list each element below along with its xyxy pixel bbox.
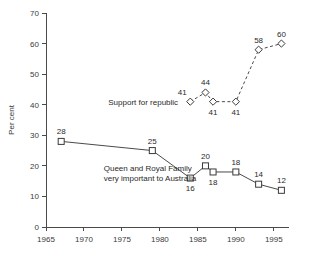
data-point-marker <box>256 181 262 187</box>
x-tick-label: 1980 <box>151 235 169 244</box>
data-point-marker <box>149 148 155 154</box>
data-point-marker <box>278 187 284 193</box>
x-tick-label: 1975 <box>113 235 131 244</box>
data-point-label: 16 <box>186 184 195 193</box>
data-point-label: 41 <box>209 108 218 117</box>
y-tick-label: 10 <box>30 192 39 201</box>
data-point-label: 44 <box>201 78 210 87</box>
data-point-label: 20 <box>201 152 210 161</box>
chart-plot-area: 010203040506070 196519701975198019851990… <box>0 0 309 264</box>
republic-annotation: Support for republic <box>108 98 178 107</box>
y-tick-label: 30 <box>30 131 39 140</box>
data-point-label: 41 <box>178 88 187 97</box>
y-tick-group: 010203040506070 <box>30 9 46 232</box>
axis-lines <box>46 13 289 227</box>
x-tick-label: 1995 <box>265 235 283 244</box>
y-tick-label: 50 <box>30 70 39 79</box>
axes-group <box>46 13 289 227</box>
x-tick-label: 1970 <box>75 235 93 244</box>
y-tick-label: 40 <box>30 101 39 110</box>
y-tick-label: 0 <box>35 223 40 232</box>
chart-container: 010203040506070 196519701975198019851990… <box>0 0 309 264</box>
data-point-marker <box>58 138 64 144</box>
x-tick-label: 1965 <box>37 235 55 244</box>
data-point-label: 14 <box>254 170 263 179</box>
monarchy-annotation: Queen and Royal Family <box>104 164 192 173</box>
data-point-marker <box>187 98 194 105</box>
y-tick-label: 20 <box>30 162 39 171</box>
data-point-label: 60 <box>277 30 286 39</box>
data-point-label: 12 <box>277 176 286 185</box>
data-point-marker <box>255 46 262 53</box>
data-point-marker <box>202 163 208 169</box>
data-point-label: 18 <box>231 158 240 167</box>
y-tick-label: 70 <box>30 9 39 18</box>
data-point-label: 25 <box>148 137 157 146</box>
x-tick-label: 1990 <box>227 235 245 244</box>
data-point-label: 58 <box>254 36 263 45</box>
monarchy-annotation: very important to Australia <box>104 174 197 183</box>
data-point-marker <box>232 98 239 105</box>
data-point-label: 18 <box>209 178 218 187</box>
data-point-marker <box>209 98 216 105</box>
y-axis-title-group: Per cent <box>7 104 16 135</box>
x-tick-label: 1985 <box>189 235 207 244</box>
x-tick-group: 1965197019751980198519901995 <box>37 227 283 244</box>
data-point-marker <box>202 89 209 96</box>
data-point-label: 41 <box>231 108 240 117</box>
data-point-marker <box>233 169 239 175</box>
y-tick-label: 60 <box>30 40 39 49</box>
data-point-marker <box>278 40 285 47</box>
y-axis-title: Per cent <box>7 104 16 135</box>
data-point-label: 28 <box>57 127 66 136</box>
data-point-marker <box>210 169 216 175</box>
